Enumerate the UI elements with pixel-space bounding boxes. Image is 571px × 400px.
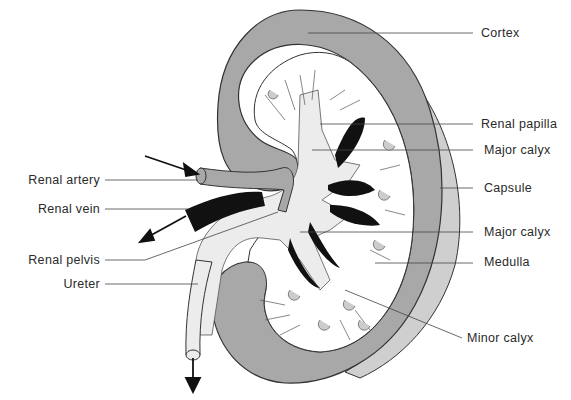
label-cortex: Cortex [481,26,520,40]
renal-artery-end [196,168,206,184]
label-major-calyx-upper: Major calyx [484,143,551,157]
label-renal-artery: Renal artery [20,173,100,187]
label-renal-vein: Renal vein [20,202,100,216]
label-minor-calyx: Minor calyx [467,331,534,345]
label-renal-papilla: Renal papilla [481,117,557,131]
label-capsule: Capsule [484,181,532,195]
label-ureter: Ureter [20,277,100,291]
label-renal-pelvis: Renal pelvis [20,253,100,267]
label-major-calyx-lower: Major calyx [484,225,551,239]
label-medulla: Medulla [484,255,530,269]
